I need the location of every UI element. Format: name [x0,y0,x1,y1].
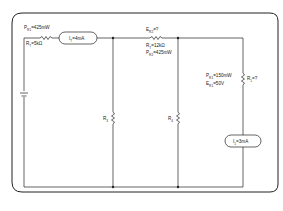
label-r1: R1=? [247,76,258,83]
label-r3: R3 [103,116,108,123]
label-p-r2: PR2=425mW [146,50,172,57]
label-e-r2: ER2=? [146,27,159,34]
label-p-r1-total: PR1=425mW [24,25,50,32]
resistor-r2-icon [150,37,162,40]
resistor-r3-icon [112,112,115,124]
outer-frame [12,13,278,192]
battery-icon [20,93,28,96]
label-rt2: RT=12kΩ [146,43,165,50]
label-r4: R4 [168,116,173,123]
resistor-r4-icon [177,112,180,124]
label-p-r1: PR1=150mW [206,73,232,80]
circuit-diagram: PR1=425mW RT=5kΩ IT=4mA ER2=? RT=12kΩ PR… [0,0,283,211]
resistor-r1-icon [242,73,245,85]
label-e-r1: ER1=50V [206,81,225,88]
resistor-rt-icon [40,37,52,40]
label-rt: RT=5kΩ [26,41,43,48]
